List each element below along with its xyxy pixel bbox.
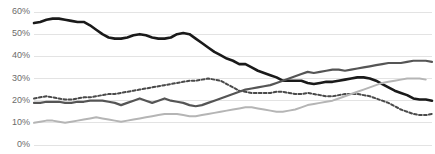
chart-plot-area [0,0,435,154]
line-chart: 60%50%40%30%20%10%0% [0,0,435,154]
series-line-1 [34,19,432,101]
series-line-3 [34,61,432,106]
